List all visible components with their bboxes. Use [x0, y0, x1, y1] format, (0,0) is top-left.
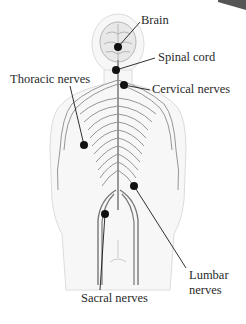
- label-thoracic-nerves: Thoracic nerves: [10, 72, 90, 86]
- nervous-system-diagram: Brain Spinal cord Cervical nerves Thorac…: [0, 0, 246, 324]
- lumbar-nerves-marker: [130, 182, 138, 190]
- sacral-nerves-marker: [101, 210, 109, 218]
- spinal-cord-marker: [112, 66, 120, 74]
- label-lumbar-nerves-line2: nerves: [189, 283, 222, 297]
- corner-shadow: [218, 0, 246, 10]
- label-spinal-cord: Spinal cord: [158, 50, 215, 64]
- brain-graphic: [100, 22, 136, 62]
- label-lumbar-nerves-line1: Lumbar: [189, 268, 229, 282]
- label-sacral-nerves: Sacral nerves: [81, 291, 148, 305]
- label-cervical-nerves: Cervical nerves: [152, 82, 230, 96]
- cervical-nerves-marker: [120, 81, 128, 89]
- label-brain: Brain: [141, 13, 169, 27]
- thoracic-nerves-marker: [80, 141, 88, 149]
- brain-marker: [114, 43, 122, 51]
